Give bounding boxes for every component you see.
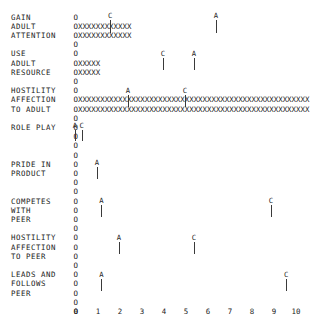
category-label: ATTENTION (11, 31, 56, 40)
category-label: AFFECTION (11, 243, 56, 252)
ascii-bar-row: O (74, 206, 78, 215)
category-label: GAIN (11, 13, 31, 22)
ascii-bar-row: O (74, 224, 78, 233)
ascii-bar-row: O (74, 298, 78, 307)
category-label: PRIDE IN (11, 160, 51, 169)
series-marker-c: C (107, 12, 114, 19)
x-axis-tick-label: 7 (223, 307, 237, 316)
ascii-bar-row: O (74, 141, 78, 150)
ascii-bar-row: O (74, 252, 78, 261)
x-axis-tick-label: 9 (267, 307, 281, 316)
marker-tick-line (101, 205, 102, 217)
ascii-bar-row: O (74, 40, 78, 49)
series-marker-c: C (182, 87, 189, 94)
category-label: USE (11, 49, 26, 58)
ascii-bar-row: O (74, 169, 78, 178)
ascii-bar-row: O (74, 178, 78, 187)
ascii-bar-row: O (74, 233, 78, 242)
marker-tick-line (82, 130, 83, 141)
series-marker-a: A (98, 197, 105, 204)
ascii-bar-row: OXXXXXXXXXXXXXXXXXXXXXXXXXXXXXXXXXXXXXXX… (74, 105, 310, 114)
category-label: ADULT (11, 59, 36, 68)
ascii-bar-row: OXXXXX (74, 59, 101, 68)
category-label: AFFECTION (11, 95, 56, 104)
category-label: FOLLOWS (11, 279, 46, 288)
category-label: TO PEER (11, 252, 46, 261)
ascii-bar-row: O (74, 261, 78, 270)
ascii-bar-row: O (74, 77, 78, 86)
series-marker-c: C (267, 197, 274, 204)
ascii-bar-row: O (74, 215, 78, 224)
marker-tick-line (194, 242, 195, 254)
marker-tick-line (286, 279, 287, 291)
x-axis-tick-label: 0 (69, 307, 83, 316)
series-marker-c: C (283, 271, 290, 278)
series-marker-a: A (190, 50, 197, 57)
ascii-bar-row: O (74, 86, 78, 95)
marker-tick-line (119, 242, 120, 254)
ascii-bar-row: O (74, 279, 78, 288)
category-label: TO ADULT (11, 105, 51, 114)
series-marker-a: A (94, 159, 101, 166)
ascii-bar-row: O (74, 160, 78, 169)
category-label: ROLE PLAY (11, 123, 56, 132)
ascii-bar-row: O (74, 13, 78, 22)
category-label: PRODUCT (11, 169, 46, 178)
category-label: WITH (11, 206, 31, 215)
series-marker-a: A (116, 234, 123, 241)
x-axis-tick-label: 8 (245, 307, 259, 316)
category-label: HOSTILITY (11, 233, 56, 242)
ascii-bar-row: OXXXXXXXXXXXX (74, 22, 132, 31)
ascii-bar-row: OXXXXX (74, 68, 101, 77)
category-label: PEER (11, 289, 31, 298)
category-label: HOSTILITY (11, 86, 56, 95)
ascii-bar-row: OXXXXXXXXXXXXXXXXXXXXXXXXXXXXXXXXXXXXXXX… (74, 95, 310, 104)
series-marker-a: A (124, 87, 131, 94)
ascii-bar-row: O (74, 49, 78, 58)
category-label: RESOURCE (11, 68, 51, 77)
x-axis-tick-label: 10 (289, 307, 303, 316)
ascii-bar-row: OXXXXXXXXXXXX (74, 31, 132, 40)
category-label: ADULT (11, 22, 36, 31)
ascii-bar-row: O (74, 243, 78, 252)
marker-tick-line (216, 20, 217, 33)
marker-tick-line (194, 58, 195, 70)
marker-tick-line (101, 279, 102, 291)
marker-tick-line (185, 95, 186, 107)
category-label: PEER (11, 215, 31, 224)
series-marker-c: C (190, 234, 197, 241)
ascii-bar-row: O (74, 151, 78, 160)
marker-tick-line (110, 20, 111, 33)
series-marker-a: A (98, 271, 105, 278)
ascii-bar-row: O (74, 289, 78, 298)
marker-tick-line (75, 130, 76, 141)
marker-tick-line (128, 95, 129, 107)
x-axis: 012345678910 (0, 307, 316, 318)
x-axis-tick-label: 4 (157, 307, 171, 316)
x-axis-tick-label: 3 (135, 307, 149, 316)
ascii-bar-row: O (74, 270, 78, 279)
ascii-bar-row: O (74, 187, 78, 196)
series-marker-c: C (78, 122, 85, 129)
series-marker-c: C (160, 50, 167, 57)
ascii-bar-row: O (74, 197, 78, 206)
x-axis-tick-label: 1 (91, 307, 105, 316)
marker-tick-line (97, 167, 98, 179)
x-axis-tick-label: 2 (113, 307, 127, 316)
category-label: LEADS AND (11, 270, 56, 279)
marker-tick-line (271, 205, 272, 217)
series-marker-a: A (212, 12, 219, 19)
category-label: COMPETES (11, 197, 51, 206)
marker-tick-line (163, 58, 164, 70)
x-axis-tick-label: 5 (179, 307, 193, 316)
teletype-behavior-chart: GAINADULTATTENTIONUSEADULTRESOURCEHOSTIL… (0, 0, 316, 331)
x-axis-tick-label: 6 (201, 307, 215, 316)
